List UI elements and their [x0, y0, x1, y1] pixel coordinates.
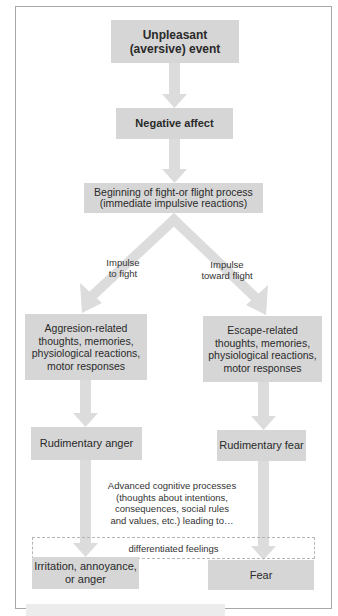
node-rudimentary-anger: Rudimentary anger [31, 427, 142, 460]
node-fear: Fear [208, 560, 314, 590]
differentiated-feelings-label: differentiated feelings [128, 543, 218, 554]
node-fight-or-flight: Beginning of fight-or flight process (im… [84, 183, 263, 213]
node-negative-affect: Negative affect [116, 108, 233, 139]
edge-label-impulse-flight: Impulse toward flight [195, 259, 259, 281]
differentiated-feelings-band: differentiated feelings [32, 537, 315, 559]
node-escape-related: Escape-related thoughts, memories, physi… [203, 316, 322, 382]
caption-strip [26, 604, 225, 616]
node-rudimentary-fear: Rudimentary fear [217, 430, 306, 461]
arrow-down-icon [162, 63, 187, 108]
arrow-down-icon [162, 139, 187, 183]
edge-label-impulse-fight: Impulse to fight [98, 257, 148, 279]
node-irritation-anger: Irritation, annoyance, or anger [32, 557, 139, 589]
node-unpleasant-event: Unpleasant (aversive) event [111, 20, 239, 63]
arrow-down-icon [251, 382, 276, 430]
annotation-cognitive-processes: Advanced cognitive processes (thoughts a… [104, 480, 240, 526]
node-aggression-related: Aggresion-related thoughts, memories, ph… [25, 314, 147, 380]
arrow-down-icon [73, 380, 98, 427]
